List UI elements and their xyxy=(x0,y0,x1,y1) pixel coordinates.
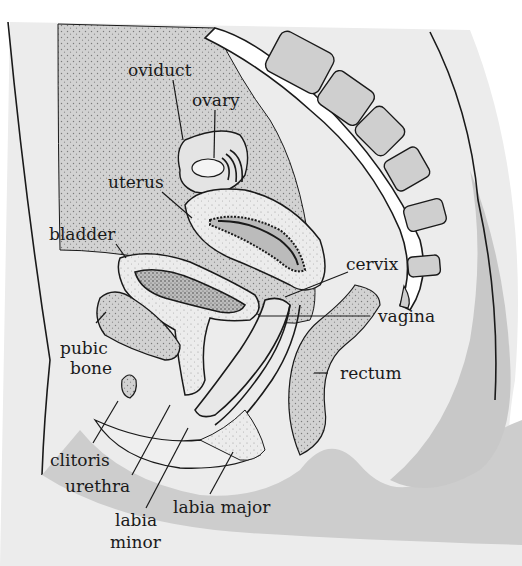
label-labia-minor-line2: minor xyxy=(110,532,162,552)
label-labia-minor-line1: labia xyxy=(115,510,157,530)
ovary-oviduct xyxy=(178,131,247,193)
label-bladder: bladder xyxy=(49,224,116,244)
label-labia-major: labia major xyxy=(173,497,271,517)
label-vagina: vagina xyxy=(377,306,435,326)
label-urethra: urethra xyxy=(65,476,130,496)
label-pubic-bone-line2: bone xyxy=(70,358,112,378)
label-ovary: ovary xyxy=(192,90,240,110)
label-rectum: rectum xyxy=(340,363,402,383)
label-pubic-bone-line1: pubic xyxy=(60,338,108,358)
label-clitoris: clitoris xyxy=(50,450,110,470)
label-uterus: uterus xyxy=(108,172,164,192)
label-oviduct: oviduct xyxy=(128,60,192,80)
label-cervix: cervix xyxy=(346,254,399,274)
anatomy-diagram: oviduct ovary uterus bladder cervix pubi… xyxy=(0,0,522,566)
